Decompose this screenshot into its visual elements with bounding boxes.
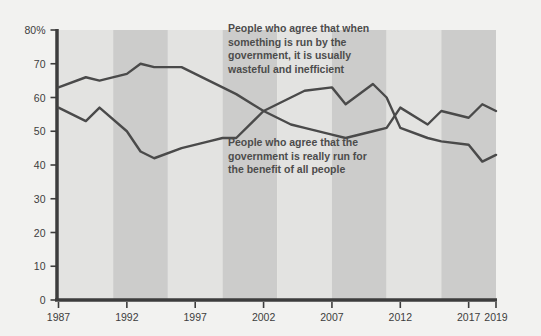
background-band: [441, 30, 496, 300]
x-tick-label: 2012: [389, 311, 413, 323]
annotation-line: People who agree that the: [228, 136, 358, 148]
annotation-line: People who agree that when: [228, 22, 369, 34]
y-tick-label: 10: [34, 260, 46, 272]
y-tick-label: 20: [34, 227, 46, 239]
x-tick-label: 1992: [115, 311, 139, 323]
y-tick-label: 30: [34, 193, 46, 205]
annotation-line: the benefit of all people: [228, 163, 345, 175]
y-tick-label: 70: [34, 58, 46, 70]
annotation-line: government, it is usually: [228, 49, 351, 61]
y-axis-ticks: 01020304050607080%: [24, 24, 56, 306]
x-tick-label: 2017: [457, 311, 481, 323]
y-tick-label: 50: [34, 125, 46, 137]
y-tick-label: 0: [40, 294, 46, 306]
background-band: [113, 30, 168, 300]
annotation-line: something is run by the: [228, 36, 347, 48]
x-tick-label: 2007: [320, 311, 344, 323]
line-chart: 01020304050607080% 198719921997200220072…: [0, 0, 541, 336]
background-band: [387, 30, 442, 300]
x-tick-label: 2002: [252, 311, 276, 323]
y-tick-label: 60: [34, 92, 46, 104]
y-tick-label: 40: [34, 159, 46, 171]
background-band: [59, 30, 114, 300]
annotation-line: government is really run for: [228, 150, 367, 162]
x-tick-label: 1987: [47, 311, 71, 323]
y-tick-label: 80%: [24, 24, 45, 36]
chart-container: 01020304050607080% 198719921997200220072…: [0, 0, 541, 336]
background-band: [168, 30, 223, 300]
x-tick-label: 1997: [184, 311, 208, 323]
x-axis-ticks: 19871992199720022007201220172019: [47, 302, 508, 323]
annotation-line: wasteful and inefficient: [227, 63, 345, 75]
x-tick-label: 2019: [484, 311, 508, 323]
